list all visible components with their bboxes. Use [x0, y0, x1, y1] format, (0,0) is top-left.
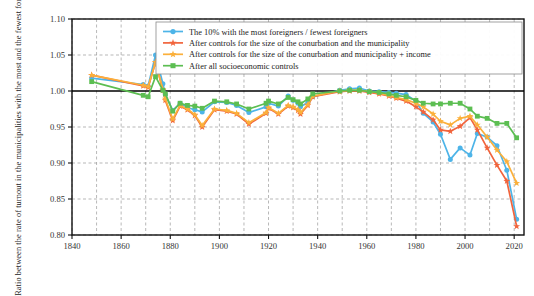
data-point — [266, 99, 271, 104]
data-point — [414, 98, 419, 103]
data-point — [438, 102, 443, 107]
data-point — [224, 99, 229, 104]
legend-label: After controls for the size of the conur… — [189, 39, 410, 48]
data-point — [298, 102, 303, 107]
series-group — [88, 53, 520, 230]
x-tick-label: 1940 — [309, 241, 326, 251]
data-point — [153, 74, 158, 79]
data-point — [394, 93, 399, 98]
data-point — [448, 101, 453, 106]
data-point — [170, 63, 175, 68]
x-tick-label: 1880 — [162, 241, 179, 251]
data-point — [178, 101, 183, 106]
data-point — [458, 145, 463, 150]
data-point — [347, 88, 352, 93]
data-point — [286, 95, 291, 100]
data-point — [377, 90, 382, 95]
legend-label: After all socioeconomic controls — [189, 62, 299, 71]
data-point — [431, 102, 436, 107]
data-point — [305, 97, 310, 102]
data-point — [367, 89, 372, 94]
data-point — [276, 102, 281, 107]
legend-label: The 10% with the most foreigners / fewes… — [189, 28, 368, 37]
series-line — [92, 62, 517, 226]
y-axis-ticks: 0.800.850.900.951.001.051.10 — [50, 14, 72, 240]
data-point — [468, 107, 473, 112]
data-point — [447, 128, 454, 135]
data-point — [192, 104, 197, 109]
legend-item[interactable]: After controls for the size of the conur… — [163, 50, 431, 59]
y-tick-label: 0.95 — [50, 122, 65, 132]
data-point — [448, 157, 453, 162]
x-tick-label: 2000 — [456, 241, 473, 251]
data-point — [458, 101, 463, 106]
y-tick-label: 1.05 — [50, 50, 65, 60]
x-tick-label: 2020 — [506, 241, 523, 251]
data-point — [485, 116, 490, 121]
data-point — [495, 121, 500, 126]
data-point — [310, 91, 315, 96]
y-tick-label: 0.90 — [50, 158, 65, 168]
data-point — [246, 107, 251, 112]
data-point — [234, 102, 239, 107]
data-point — [146, 94, 151, 99]
x-tick-label: 1960 — [358, 241, 375, 251]
legend: The 10% with the most foreigners / fewes… — [156, 22, 522, 74]
data-point — [185, 103, 190, 108]
data-point — [89, 79, 94, 84]
data-point — [357, 88, 362, 93]
x-tick-label: 1840 — [63, 241, 80, 251]
series-line — [92, 77, 517, 138]
data-point — [421, 101, 426, 106]
legend-item[interactable]: The 10% with the most foreigners / fewes… — [163, 28, 368, 37]
data-point — [404, 94, 409, 99]
series-2 — [88, 59, 520, 186]
x-tick-label: 1920 — [260, 241, 277, 251]
y-tick-label: 1.00 — [50, 86, 65, 96]
legend-item[interactable]: After controls for the size of the conur… — [163, 39, 410, 48]
data-point — [170, 109, 175, 114]
data-point — [212, 99, 217, 104]
data-point — [504, 121, 509, 126]
x-tick-label: 1980 — [407, 241, 424, 251]
x-axis-ticks: 1840186018801900192019401960198020002020 — [63, 235, 522, 251]
x-tick-label: 1860 — [113, 241, 130, 251]
series-line — [92, 55, 517, 219]
y-tick-label: 0.80 — [50, 230, 65, 240]
x-tick-label: 1900 — [211, 241, 228, 251]
data-point — [504, 168, 509, 173]
data-point — [386, 91, 391, 96]
data-point — [467, 153, 472, 158]
data-point — [514, 135, 519, 140]
y-tick-label: 1.10 — [50, 14, 65, 24]
data-point — [291, 97, 296, 102]
data-point — [163, 91, 168, 96]
y-tick-label: 0.85 — [50, 194, 65, 204]
data-point — [475, 114, 480, 119]
data-point — [170, 29, 175, 34]
series-3 — [89, 74, 519, 140]
data-point — [337, 89, 342, 94]
legend-label: After controls for the size of the conur… — [189, 50, 431, 59]
series-line — [92, 62, 517, 183]
data-point — [200, 106, 205, 111]
data-point — [141, 93, 146, 98]
